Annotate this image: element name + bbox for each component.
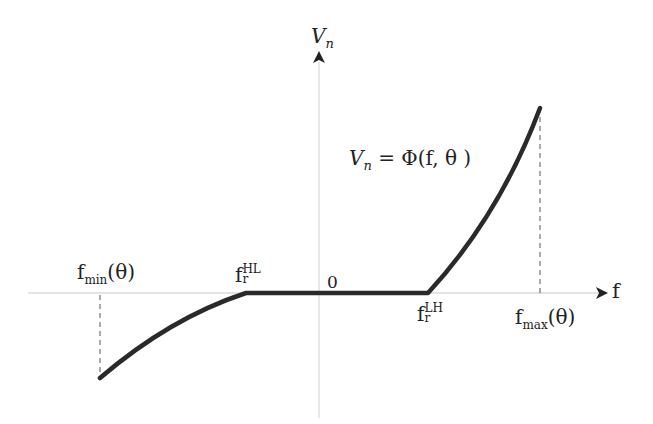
y-axis-label-subscript: n	[325, 36, 333, 51]
fr-lh-label: fLHr	[417, 304, 443, 324]
y-axis-label-base: V	[311, 24, 325, 48]
fmax-label: fmax(θ)	[515, 307, 575, 327]
fr-lh-scripts: LHr	[424, 304, 442, 324]
plot-svg	[0, 0, 653, 424]
y-axis-label: Vn	[311, 26, 334, 46]
equation-lhs-base: V	[349, 146, 363, 170]
origin-label: 0	[327, 274, 338, 291]
fmin-label: fmin(θ)	[77, 262, 135, 282]
fmax-subscript: max	[522, 318, 547, 332]
y-axis-arrow-icon	[313, 51, 325, 63]
fr-lh-subscript: r	[424, 312, 430, 324]
fr-hl-scripts: HLr	[242, 265, 260, 285]
diagram-canvas: Vn f Vn = Φ(f, θ ) 0 fmin(θ) fHLr fLHr f…	[0, 0, 653, 424]
fmin-arg: (θ)	[107, 260, 135, 284]
x-axis-label: f	[612, 281, 620, 302]
fr-hl-subscript: r	[242, 273, 248, 285]
fmin-subscript: min	[84, 273, 107, 287]
origin-label-text: 0	[327, 272, 338, 292]
equation-lhs-subscript: n	[363, 158, 371, 173]
vn-curve	[100, 108, 540, 378]
x-axis-label-text: f	[612, 279, 620, 303]
fmax-arg: (θ)	[548, 305, 576, 329]
equation-rhs: = Φ(f, θ )	[378, 146, 471, 170]
equation-label: Vn = Φ(f, θ )	[349, 148, 471, 168]
fr-hl-label: fHLr	[235, 265, 261, 285]
